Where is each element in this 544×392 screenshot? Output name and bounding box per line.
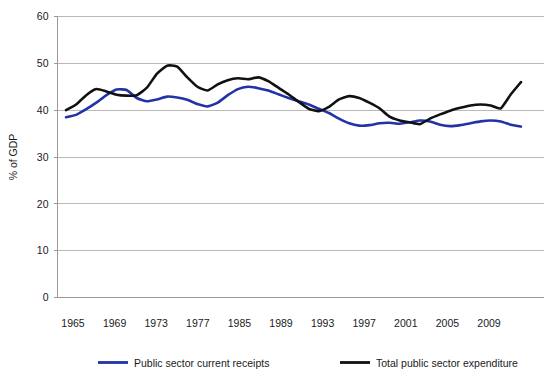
x-tick-label: 1993 <box>311 317 335 329</box>
series-line-expenditure <box>66 65 521 124</box>
data-series <box>66 65 521 126</box>
y-tick-label: 30 <box>37 151 49 163</box>
chart-legend: Public sector current receiptsTotal publ… <box>98 357 518 369</box>
x-tick-label: 2001 <box>394 317 418 329</box>
legend-label: Public sector current receipts <box>134 357 269 369</box>
x-tick-label: 1973 <box>145 317 169 329</box>
y-axis-title: % of GDP <box>7 134 19 181</box>
x-axis-tick-labels: 1965196919731977198519891993199720012005… <box>61 317 501 329</box>
y-axis-tick-labels: 0102030405060 <box>37 10 49 303</box>
gridlines <box>58 17 544 298</box>
y-tick-label: 40 <box>37 104 49 116</box>
x-tick-label: 1989 <box>269 317 293 329</box>
x-tick-label: 1997 <box>353 317 377 329</box>
x-tick-label: 2009 <box>477 317 501 329</box>
y-tick-label: 20 <box>37 198 49 210</box>
line-chart: 0102030405060 19651969197319771985198919… <box>0 0 544 392</box>
series-line-receipts <box>66 87 521 127</box>
x-tick-label: 1969 <box>103 317 127 329</box>
y-tick-label: 10 <box>37 244 49 256</box>
y-axis <box>54 17 58 298</box>
y-tick-label: 0 <box>43 291 49 303</box>
y-axis-title: % of GDP <box>7 134 19 181</box>
y-tick-label: 60 <box>37 10 49 22</box>
x-tick-label: 2005 <box>436 317 460 329</box>
chart-container: 0102030405060 19651969197319771985198919… <box>0 0 544 392</box>
y-tick-label: 50 <box>37 57 49 69</box>
legend-label: Total public sector expenditure <box>376 357 518 369</box>
x-tick-label: 1977 <box>186 317 210 329</box>
x-tick-label: 1965 <box>61 317 85 329</box>
x-tick-label: 1985 <box>228 317 252 329</box>
